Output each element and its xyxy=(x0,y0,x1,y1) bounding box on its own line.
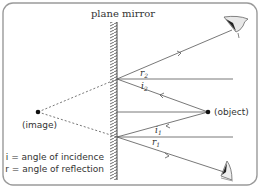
legend-incidence: i = angle of incidence xyxy=(6,152,105,162)
ray-arrows xyxy=(160,51,181,158)
label-i1: i1 xyxy=(155,125,162,136)
reflected-ray-lower xyxy=(117,137,224,172)
label-r1: r1 xyxy=(152,137,160,148)
incident-ray-upper xyxy=(117,79,208,112)
plane-mirror xyxy=(110,22,117,180)
reflection-diagram: plane mirror r2 i2 i1 r1 (image) (object… xyxy=(0,0,261,189)
incident-ray-lower xyxy=(117,112,208,137)
mirror-title: plane mirror xyxy=(91,8,155,19)
image-label: (image) xyxy=(22,120,57,130)
virtual-ray-upper xyxy=(38,79,117,112)
reflected-ray-upper xyxy=(117,30,232,79)
object-point xyxy=(206,110,211,115)
object-label: (object) xyxy=(214,107,249,117)
eye-icon-lower xyxy=(221,161,233,181)
eye-icon-upper xyxy=(224,16,248,38)
label-r2: r2 xyxy=(140,68,148,79)
image-point xyxy=(36,110,41,115)
legend-reflection: r = angle of reflection xyxy=(5,164,104,174)
label-i2: i2 xyxy=(141,81,148,92)
